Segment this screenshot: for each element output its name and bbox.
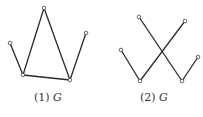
graph-edge [182, 57, 198, 81]
caption-graph-1: (1) G [34, 91, 62, 104]
caption-1-variable: G [53, 91, 62, 104]
graph-edge [139, 17, 182, 81]
graph-canvas [0, 0, 203, 117]
graph-vertex [8, 41, 12, 45]
graph-vertex [21, 73, 25, 77]
graph-vertex [68, 78, 72, 82]
graph-2 [119, 15, 200, 83]
caption-2-variable: G [159, 91, 168, 104]
graph-edge [121, 50, 140, 81]
caption-graph-2: (2) G [140, 91, 168, 104]
graph-edge [23, 75, 70, 80]
graph-edge [70, 33, 86, 80]
graph-vertex [119, 48, 123, 52]
graph-vertex [137, 15, 141, 19]
graph-vertex [196, 55, 200, 59]
graph-edge [23, 8, 44, 75]
graph-vertex [42, 6, 46, 10]
graph-edge [44, 8, 70, 80]
graph-vertex [84, 31, 88, 35]
graph-vertex [180, 79, 184, 83]
graph-vertex [138, 79, 142, 83]
graph-vertex [183, 19, 187, 23]
graph-edge [10, 43, 23, 75]
caption-2-number: (2) [140, 91, 156, 104]
graph-1 [8, 6, 88, 82]
caption-1-number: (1) [34, 91, 50, 104]
